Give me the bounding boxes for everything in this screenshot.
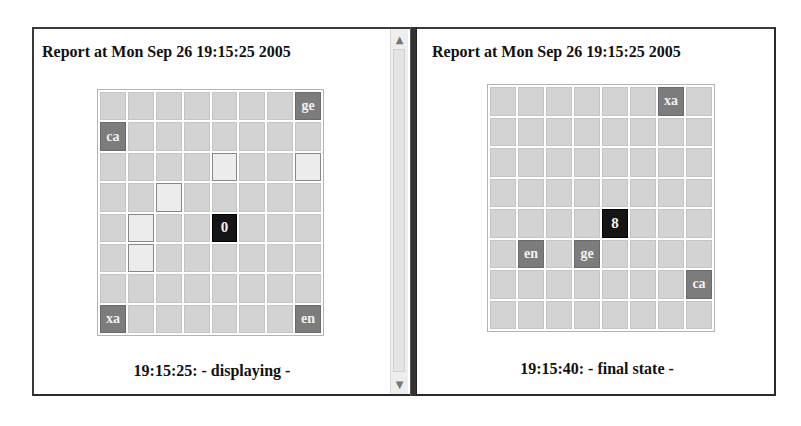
grid-cell [574, 148, 600, 177]
grid-cell [212, 244, 238, 272]
right-report-pane: Report at Mon Sep 26 19:15:25 2005 xa8en… [418, 29, 776, 394]
grid-cell [184, 183, 210, 211]
grid-cell [128, 122, 154, 150]
grid-cell [518, 209, 544, 238]
grid-cell [156, 122, 182, 150]
agent-cell: 8 [602, 209, 628, 238]
grid-cell [184, 92, 210, 120]
grid-cell [239, 153, 265, 181]
grid-cell [602, 240, 628, 269]
grid-cell [184, 274, 210, 302]
grid-cell [239, 122, 265, 150]
grid-cell [128, 183, 154, 211]
grid-cell [630, 301, 656, 330]
grid-cell [156, 244, 182, 272]
grid-cell [630, 270, 656, 299]
status-text: 19:15:25: - displaying - [34, 362, 390, 380]
highlighted-cell [128, 244, 154, 272]
grid-cell [267, 183, 293, 211]
grid-cell [184, 305, 210, 333]
grid-cell [295, 244, 321, 272]
grid-cell [128, 92, 154, 120]
grid-cell [602, 270, 628, 299]
grid-cell [212, 92, 238, 120]
grid-cell [602, 301, 628, 330]
grid-cell [212, 183, 238, 211]
grid-cell [156, 214, 182, 242]
tile-xa: xa [100, 305, 126, 333]
grid-cell [490, 148, 516, 177]
grid-cell [686, 301, 712, 330]
vertical-scrollbar[interactable]: ▲ ▼ [390, 29, 408, 394]
grid-cell [574, 118, 600, 147]
grid-cell [546, 148, 572, 177]
grid-cell [686, 179, 712, 208]
grid-cell [156, 92, 182, 120]
tile-xa: xa [658, 87, 684, 116]
grid-cell [630, 240, 656, 269]
grid-cell [602, 118, 628, 147]
grid-cell [267, 244, 293, 272]
grid-cell [546, 240, 572, 269]
grid-cell [212, 274, 238, 302]
grid-cell [295, 183, 321, 211]
tile-ca: ca [100, 122, 126, 150]
grid-cell [574, 209, 600, 238]
grid-cell [630, 148, 656, 177]
grid-cell [100, 274, 126, 302]
grid-cell [518, 179, 544, 208]
grid-cell [574, 87, 600, 116]
grid-cell [658, 209, 684, 238]
grid-cell [658, 148, 684, 177]
grid-cell [490, 179, 516, 208]
grid-cell [295, 214, 321, 242]
grid-cell [546, 179, 572, 208]
tile-ge: ge [295, 92, 321, 120]
grid-cell [686, 209, 712, 238]
grid-cell [490, 118, 516, 147]
grid-cell [546, 87, 572, 116]
grid-cell [267, 153, 293, 181]
grid-cell [184, 214, 210, 242]
grid-cell [658, 118, 684, 147]
world-grid: geca0xaen [97, 89, 324, 336]
grid-cell [156, 274, 182, 302]
grid-cell [658, 301, 684, 330]
grid-cell [518, 87, 544, 116]
pane-splitter[interactable] [410, 27, 417, 396]
grid-cell [546, 118, 572, 147]
scroll-up-arrow-icon[interactable]: ▲ [391, 31, 408, 47]
grid-cell [100, 244, 126, 272]
grid-cell [184, 122, 210, 150]
grid-cell [156, 305, 182, 333]
grid-cell [295, 274, 321, 302]
agent-cell: 0 [212, 214, 238, 242]
report-title: Report at Mon Sep 26 19:15:25 2005 [432, 43, 790, 61]
tile-en: en [518, 240, 544, 269]
tile-en: en [295, 305, 321, 333]
grid-cell [602, 87, 628, 116]
grid-cell [490, 87, 516, 116]
grid-cell [267, 122, 293, 150]
grid-cell [658, 240, 684, 269]
scroll-thumb[interactable] [393, 49, 405, 372]
report-window: Report at Mon Sep 26 19:15:25 2005 geca0… [32, 27, 776, 396]
grid-cell [212, 305, 238, 333]
grid-cell [267, 274, 293, 302]
grid-cell [518, 118, 544, 147]
grid-cell [686, 87, 712, 116]
highlighted-cell [128, 214, 154, 242]
grid-cell [602, 179, 628, 208]
grid-cell [546, 270, 572, 299]
grid-cell [100, 153, 126, 181]
grid-cell [239, 305, 265, 333]
grid-cell [630, 209, 656, 238]
grid-cell [630, 118, 656, 147]
scroll-down-arrow-icon[interactable]: ▼ [391, 376, 408, 392]
grid-cell [239, 92, 265, 120]
grid-cell [686, 240, 712, 269]
grid-cell [267, 305, 293, 333]
grid-cell [490, 301, 516, 330]
grid-cell [574, 270, 600, 299]
grid-cell [602, 148, 628, 177]
